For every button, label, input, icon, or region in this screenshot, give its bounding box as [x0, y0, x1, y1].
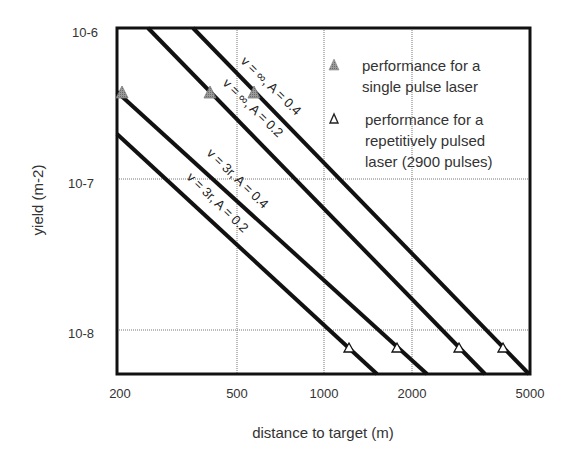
legend-item-2-line-2: repetitively pulsed: [365, 132, 485, 149]
legend: performance for a single pulse laser per…: [329, 57, 493, 170]
legend-item-1-line-1: performance for a: [362, 57, 481, 74]
legend-filled-triangle-icon: [329, 59, 339, 70]
legend-item-1-line-2: single pulse laser: [362, 78, 478, 95]
yield-vs-distance-chart: v = ∞, A = 0.4 v = ∞, A = 0.2 v = 3r, A …: [0, 0, 576, 463]
line-v3r-a02: [117, 134, 377, 374]
legend-item-2-line-1: performance for a: [365, 111, 484, 128]
x-tick-1000: 1000: [310, 386, 339, 401]
x-tick-2000: 2000: [398, 386, 427, 401]
repetitive-markers: [344, 343, 508, 352]
y-axis-ticks: 10-6 10-7 10-8: [68, 25, 98, 341]
x-tick-500: 500: [226, 386, 248, 401]
legend-item-2-line-3: laser (2900 pulses): [365, 153, 493, 170]
y-axis-label: yield (m-2): [29, 165, 46, 236]
x-axis-label: distance to target (m): [252, 424, 394, 441]
line-vinf-a04: [193, 28, 529, 374]
y-tick-1e-8: 10-8: [68, 326, 94, 341]
y-tick-1e-6: 10-6: [72, 25, 98, 40]
x-tick-200: 200: [109, 386, 131, 401]
legend-open-triangle-icon: [330, 114, 338, 123]
x-axis-ticks: 200 500 1000 2000 5000: [109, 386, 544, 401]
x-tick-5000: 5000: [516, 386, 545, 401]
y-tick-1e-7: 10-7: [68, 176, 94, 191]
